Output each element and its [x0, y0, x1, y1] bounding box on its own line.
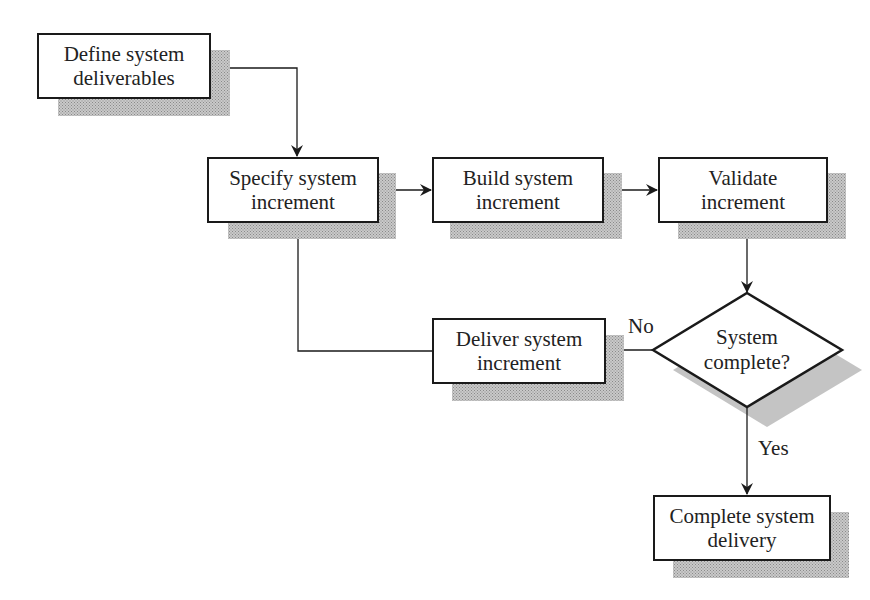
- edge-label-yes: Yes: [758, 436, 789, 461]
- node-label-line2: increment: [701, 190, 785, 214]
- node-label-line1: Build system: [463, 166, 573, 190]
- node-define-system-deliverables: Define systemdeliverables: [37, 33, 211, 99]
- node-label-line2: delivery: [669, 528, 814, 552]
- node-label-line1: Define system: [64, 42, 185, 66]
- node-label-line2: deliverables: [64, 66, 185, 90]
- node-label-line2: increment: [463, 190, 573, 214]
- node-label-line1: Specify system: [229, 166, 357, 190]
- edge-label-no: No: [628, 314, 654, 339]
- node-label-line1: System: [687, 325, 807, 350]
- node-label-line1: Deliver system: [456, 327, 583, 351]
- node-specify-system-increment: Specify systemincrement: [207, 157, 379, 223]
- node-label-line1: Complete system: [669, 504, 814, 528]
- node-label-line1: Validate: [701, 166, 785, 190]
- node-complete-system-delivery: Complete systemdelivery: [653, 495, 831, 561]
- node-label-line2: increment: [229, 190, 357, 214]
- node-system-complete-decision: System complete?: [687, 325, 807, 375]
- edge-deliver-to-specify: [298, 223, 432, 351]
- node-validate-increment: Validateincrement: [658, 157, 828, 223]
- node-build-system-increment: Build systemincrement: [432, 157, 604, 223]
- node-label-line2: complete?: [687, 350, 807, 375]
- node-label-line2: increment: [456, 351, 583, 375]
- node-deliver-system-increment: Deliver systemincrement: [432, 318, 606, 384]
